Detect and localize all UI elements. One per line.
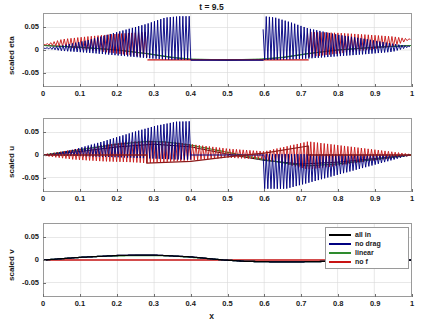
panel-1-xtick-mark	[154, 84, 155, 87]
panel-1-xtick: 0.2	[103, 89, 131, 98]
panel-1-canvas	[44, 14, 411, 86]
panel-1-ytick-mark	[43, 27, 46, 28]
panel-3-ytick: -0.05	[8, 278, 39, 287]
panel-2-xtick-mark	[154, 189, 155, 192]
panel-3-xtick-mark	[191, 294, 192, 297]
figure-title: t = 9.5	[0, 2, 423, 12]
panel-2-xtick-mark	[228, 189, 229, 192]
panel-2-ytick: -0.05	[8, 173, 39, 182]
panel-2-ytick-mark	[43, 178, 46, 179]
x-axis-label: x	[0, 311, 423, 321]
panel-2-xtick-mark	[43, 189, 44, 192]
panel-2-xtick: 0.5	[214, 194, 242, 203]
panel-3-xtick-mark	[375, 294, 376, 297]
panel-2-xtick: 0.3	[140, 194, 168, 203]
panel-1-xtick: 0.4	[177, 89, 205, 98]
panel-3-xtick: 0.8	[324, 299, 352, 308]
legend-item-no-f[interactable]: no f	[329, 257, 405, 266]
panel-3-xtick-mark	[43, 294, 44, 297]
panel-1-xtick: 0.6	[250, 89, 278, 98]
panel-3-xtick-mark	[412, 294, 413, 297]
panel-2-xtick: 0.8	[324, 194, 352, 203]
panel-1-ytick-mark	[43, 73, 46, 74]
panel-3-xtick: 0.7	[287, 299, 315, 308]
panel-3-xtick: 0.5	[214, 299, 242, 308]
panel-1-xtick: 0.1	[66, 89, 94, 98]
panel-2-ytick: 0	[8, 150, 39, 159]
panel-2-xtick: 0.9	[361, 194, 389, 203]
panel-3-xtick: 0.3	[140, 299, 168, 308]
legend-item-all-in[interactable]: all in	[329, 230, 405, 239]
panel-2-xtick: 0.6	[250, 194, 278, 203]
panel-2-xtick-mark	[80, 189, 81, 192]
panel-2-xtick: 0	[29, 194, 57, 203]
panel-2-xtick: 1	[398, 194, 423, 203]
legend: all inno draglinearno f	[325, 227, 409, 269]
legend-item-linear[interactable]: linear	[329, 248, 405, 257]
panel-1-xtick-mark	[264, 84, 265, 87]
panel-2-xtick: 0.7	[287, 194, 315, 203]
panel-3-xtick: 0	[29, 299, 57, 308]
panel-3-ytick: 0.05	[8, 232, 39, 241]
legend-label: all in	[355, 230, 371, 239]
panel-1-xtick: 1	[398, 89, 423, 98]
figure-root: t = 9.5 scaled eta scaled u scaled v all…	[0, 0, 423, 332]
panel-3-xtick-mark	[228, 294, 229, 297]
panel-1-xtick-mark	[375, 84, 376, 87]
panel-2-xtick: 0.4	[177, 194, 205, 203]
legend-label: no f	[355, 257, 368, 266]
panel-1-plot-area	[43, 13, 412, 87]
panel-3-ytick-mark	[43, 260, 46, 261]
panel-3-xtick: 0.9	[361, 299, 389, 308]
panel-1-xtick-mark	[117, 84, 118, 87]
panel-3-ytick: 0	[8, 255, 39, 264]
legend-swatch-no-drag	[329, 243, 351, 245]
panel-2-xtick-mark	[301, 189, 302, 192]
panel-1-ytick: 0.05	[8, 22, 39, 31]
panel-1-xtick: 0.9	[361, 89, 389, 98]
panel-3-xtick: 0.4	[177, 299, 205, 308]
panel-2-ytick-mark	[43, 132, 46, 133]
legend-item-no-drag[interactable]: no drag	[329, 239, 405, 248]
panel-3-xtick: 0.6	[250, 299, 278, 308]
panel-1-xtick-mark	[80, 84, 81, 87]
panel-3-xtick-mark	[301, 294, 302, 297]
panel-3-xtick: 1	[398, 299, 423, 308]
panel-2-ytick-mark	[43, 155, 46, 156]
panel-1-xtick-mark	[338, 84, 339, 87]
panel-3-xtick-mark	[117, 294, 118, 297]
panel-1-xtick: 0.5	[214, 89, 242, 98]
panel-3-xtick-mark	[154, 294, 155, 297]
panel-3-ytick-mark	[43, 283, 46, 284]
legend-label: linear	[355, 248, 374, 257]
panel-2-canvas	[44, 119, 411, 191]
panel-3-xtick: 0.2	[103, 299, 131, 308]
panel-1-ytick: -0.05	[8, 68, 39, 77]
panel-1-xtick-mark	[301, 84, 302, 87]
panel-3-xtick-mark	[338, 294, 339, 297]
panel-2-xtick-mark	[338, 189, 339, 192]
panel-2-ytick: 0.05	[8, 127, 39, 136]
panel-2-plot-area	[43, 118, 412, 192]
legend-swatch-no-f	[329, 261, 351, 263]
panel-1-xtick-mark	[412, 84, 413, 87]
panel-1-xtick: 0	[29, 89, 57, 98]
panel-1-xtick-mark	[43, 84, 44, 87]
panel-2-xtick: 0.1	[66, 194, 94, 203]
legend-label: no drag	[355, 239, 381, 248]
panel-1-xtick: 0.7	[287, 89, 315, 98]
legend-swatch-all-in	[329, 234, 351, 236]
panel-2-xtick-mark	[191, 189, 192, 192]
panel-3-xtick-mark	[264, 294, 265, 297]
panel-3-xtick: 0.1	[66, 299, 94, 308]
panel-2-xtick: 0.2	[103, 194, 131, 203]
panel-3-ytick-mark	[43, 237, 46, 238]
panel-2-xtick-mark	[264, 189, 265, 192]
panel-3-xtick-mark	[80, 294, 81, 297]
panel-1-xtick: 0.8	[324, 89, 352, 98]
panel-2-xtick-mark	[412, 189, 413, 192]
panel-1-xtick-mark	[191, 84, 192, 87]
panel-2-xtick-mark	[375, 189, 376, 192]
panel-1-ytick-mark	[43, 50, 46, 51]
panel-1-ytick: 0	[8, 45, 39, 54]
